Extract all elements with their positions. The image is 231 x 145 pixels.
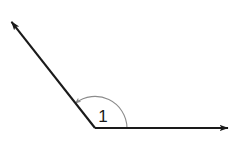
diagonal-ray	[12, 22, 96, 128]
angle-label: 1	[98, 107, 107, 126]
angle-figure-svg: 1	[0, 0, 231, 145]
angle-diagram-canvas: 1	[0, 0, 231, 145]
